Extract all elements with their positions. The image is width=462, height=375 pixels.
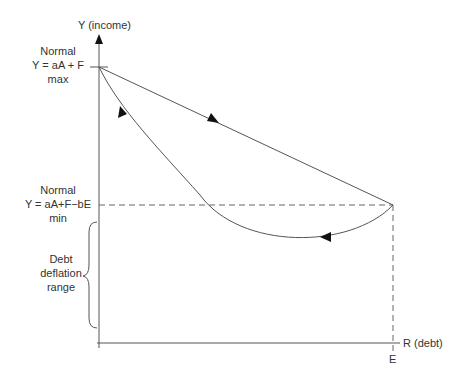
y-axis-label: Y (income) xyxy=(78,18,131,32)
x-axis-label: R (debt) xyxy=(403,336,443,350)
min-label-line3: min xyxy=(20,211,96,225)
min-label-line2: Y = aA+F−bE xyxy=(20,197,96,211)
max-label-line1: Normal xyxy=(29,44,87,58)
e-tick-label: E xyxy=(389,352,396,366)
curve-arrow-left-icon xyxy=(320,232,331,242)
curve-arrow-up-icon xyxy=(118,106,127,118)
curve-path xyxy=(99,67,393,238)
range-label-line2: deflation xyxy=(38,266,84,280)
max-label-line2: Y = aA + F xyxy=(29,58,87,72)
range-label: Debt deflation range xyxy=(38,252,84,294)
max-label: Normal Y = aA + F max xyxy=(29,44,87,86)
straight-path xyxy=(99,67,393,205)
range-brace xyxy=(83,222,97,328)
range-label-line3: range xyxy=(38,280,84,294)
straight-arrow-icon xyxy=(207,113,219,123)
min-label: Normal Y = aA+F−bE min xyxy=(20,183,96,225)
y-axis-arrow-icon xyxy=(95,34,103,44)
min-label-line1: Normal xyxy=(20,183,96,197)
range-label-line1: Debt xyxy=(38,252,84,266)
max-label-line3: max xyxy=(29,72,87,86)
